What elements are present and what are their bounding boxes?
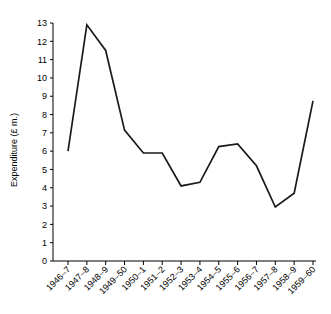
y-axis-tick-label: 5 (42, 165, 47, 175)
x-axis-group: 1946–71947–81948–91949–501950–11951–2195… (44, 261, 317, 296)
y-axis-tick-label: 0 (42, 256, 47, 266)
y-axis-tick-label: 7 (42, 128, 47, 138)
y-axis-tick-label: 8 (42, 110, 47, 120)
y-axis-tick-label: 3 (42, 201, 47, 211)
y-axis-tick-label: 6 (42, 146, 47, 156)
x-axis-tick-labels: 1946–71947–81948–91949–501950–11951–2195… (44, 264, 317, 296)
expenditure-line-chart: Expenditure (£ m.) 012345678910111213 19… (0, 0, 331, 314)
y-axis-title: Expenditure (£ m.) (9, 113, 19, 187)
y-axis-tick-label: 2 (42, 220, 47, 230)
y-axis-tick-label: 11 (38, 55, 47, 65)
y-axis-tick-label: 13 (37, 18, 47, 28)
y-axis-tick-label: 12 (37, 37, 47, 47)
y-axis-title-group: Expenditure (£ m.) (9, 113, 19, 187)
y-axis-tick-label: 9 (42, 91, 47, 101)
expenditure-series-line (68, 25, 313, 207)
y-axis-group: 012345678910111213 (37, 18, 53, 266)
y-axis-tick-label: 10 (37, 73, 47, 83)
plot-area (68, 25, 313, 207)
y-axis-tick-label: 1 (42, 238, 47, 248)
y-axis-tick-label: 4 (42, 183, 47, 193)
y-axis-tick-labels: 012345678910111213 (37, 18, 47, 266)
x-axis-tick-marks (68, 261, 313, 265)
chart-canvas: Expenditure (£ m.) 012345678910111213 19… (0, 0, 331, 314)
